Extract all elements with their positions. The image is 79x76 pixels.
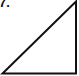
right-triangle-figure — [0, 0, 79, 76]
right-triangle — [3, 2, 77, 74]
